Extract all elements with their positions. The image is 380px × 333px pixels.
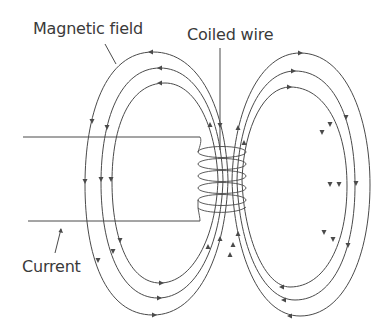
right-loop-inner <box>242 87 347 287</box>
left-loop-inner <box>112 83 218 283</box>
right-loop-middle <box>237 71 355 300</box>
current-label: Current <box>22 257 81 276</box>
electromagnet-diagram: Magnetic field Coiled wire Current <box>0 0 380 333</box>
coiled-wire-label: Coiled wire <box>187 25 273 44</box>
right-loop-outer <box>232 53 370 316</box>
magnetic-field-pointer <box>105 44 116 64</box>
current-pointer <box>55 229 61 253</box>
left-loop-middle <box>101 68 223 298</box>
field-lines-drawing <box>0 0 380 333</box>
magnetic-field-label: Magnetic field <box>33 19 143 38</box>
field-direction-arrows <box>59 50 359 319</box>
